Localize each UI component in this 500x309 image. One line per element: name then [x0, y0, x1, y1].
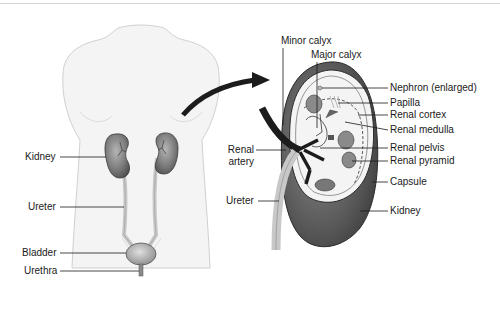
label-urethra: Urethra [24, 265, 57, 276]
label-minor-calyx: Minor calyx [281, 35, 332, 46]
torso [63, 25, 219, 268]
label-ureter: Ureter [28, 201, 56, 212]
label-renal-artery-line1: Renal [218, 144, 254, 155]
label-renal-pelvis: Renal pelvis [390, 142, 444, 153]
label-nephron: Nephron (enlarged) [390, 82, 477, 93]
label-kidney-outer: Kidney [390, 205, 421, 216]
label-kidney: Kidney [25, 151, 56, 162]
label-kidney-ureter: Ureter [226, 195, 254, 206]
label-major-calyx: Major calyx [311, 49, 362, 60]
kidney-cross-section [262, 62, 378, 250]
label-bladder: Bladder [22, 247, 56, 258]
label-papilla: Papilla [390, 97, 420, 108]
label-renal-cortex: Renal cortex [390, 109, 446, 120]
label-renal-pyramid: Renal pyramid [390, 155, 454, 166]
label-renal-medulla: Renal medulla [390, 124, 454, 135]
label-renal-artery-line2: artery [218, 156, 254, 167]
label-capsule: Capsule [390, 176, 427, 187]
